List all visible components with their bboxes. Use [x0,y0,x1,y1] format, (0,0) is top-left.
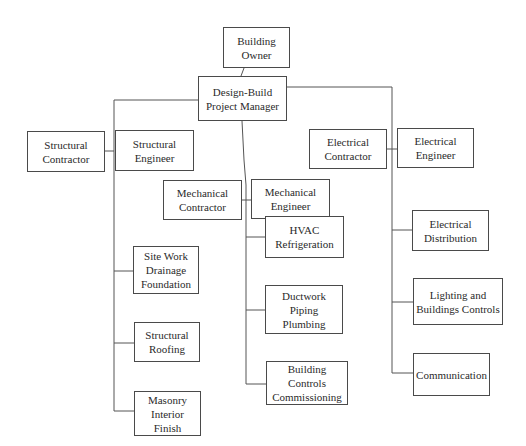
node-building-owner: Building Owner [223,27,290,68]
node-building-controls: Building Controls Commissioning [266,361,348,405]
node-label: Mechanical Engineer [265,185,316,213]
node-electrical-distribution: Electrical Distribution [412,210,489,251]
node-label: Lighting and Buildings Controls [416,288,499,316]
connector-owner-pm [241,68,244,76]
node-label: Electrical Engineer [414,134,456,162]
node-electrical-contractor: Electrical Contractor [309,129,387,169]
node-label: HVAC Refrigeration [275,223,334,251]
node-lighting-controls: Lighting and Buildings Controls [413,278,503,325]
node-ductwork: Ductwork Piping Plumbing [265,285,343,334]
node-hvac: HVAC Refrigeration [265,216,344,258]
node-label: Electrical Distribution [424,217,477,245]
node-masonry: Masonry Interior Finish [134,391,201,436]
node-label: Ductwork Piping Plumbing [282,289,326,331]
node-label: Structural Roofing [145,328,188,356]
node-electrical-engineer: Electrical Engineer [397,128,474,168]
node-label: Communication [416,368,487,382]
org-chart-diagram: Building Owner Design-Build Project Mana… [0,0,526,446]
node-label: Structural Contractor [42,138,89,166]
node-label: Building Controls Commissioning [269,362,345,404]
node-project-manager: Design-Build Project Manager [198,76,287,121]
node-structural-contractor: Structural Contractor [27,131,105,172]
connector-pm-mechanical-trunk [242,121,246,384]
node-label: Site Work Drainage Foundation [141,249,191,291]
node-label: Building Owner [237,34,276,62]
node-site-work: Site Work Drainage Foundation [133,246,199,294]
node-structural-engineer: Structural Engineer [115,130,194,171]
node-mechanical-engineer: Mechanical Engineer [251,179,330,219]
node-mechanical-contractor: Mechanical Contractor [163,180,242,220]
node-label: Design-Build Project Manager [206,85,279,113]
node-label: Structural Engineer [133,137,176,165]
node-structural-roofing: Structural Roofing [134,322,200,362]
node-communication: Communication [413,353,490,396]
node-label: Mechanical Contractor [177,186,228,214]
node-label: Electrical Contractor [324,135,371,163]
node-label: Masonry Interior Finish [137,393,198,435]
